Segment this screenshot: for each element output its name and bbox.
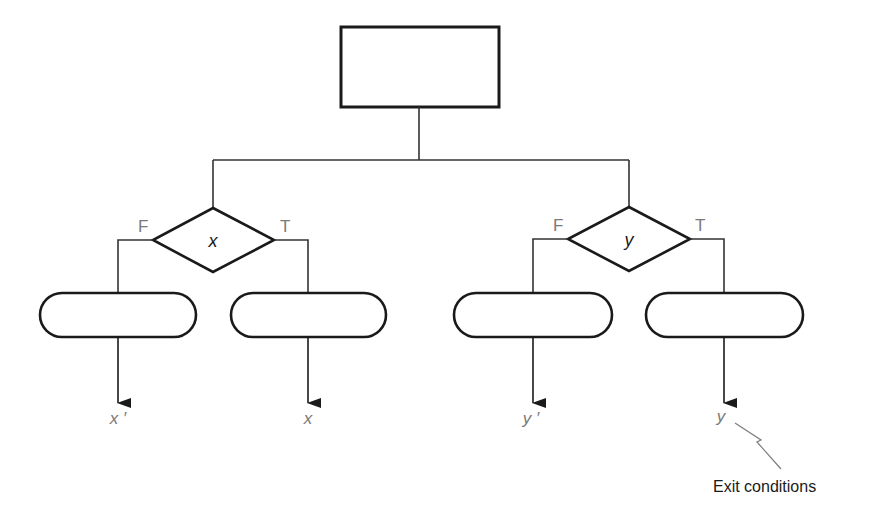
annotation-exit-conditions: Exit conditions [713,478,816,495]
decision-x-false-label: F [138,217,148,236]
action-y-true [646,293,803,337]
connector-stem [213,107,629,208]
exit-label-x-true: x [303,409,313,428]
action-y-false [454,293,612,337]
exit-label-y-false: y ′ [522,409,540,428]
decision-x-true-label: T [280,217,290,236]
exit-arrows [118,337,724,403]
exit-label-x-false: x ′ [109,409,127,428]
decision-y-condition: y [623,230,635,250]
action-x-false [40,293,196,337]
decision-y-true-label: T [695,216,705,235]
decision-x-condition: x [208,231,219,251]
decision-y-false-label: F [553,216,563,235]
annotation-leader-line [735,423,781,469]
decision-x: x F T [138,208,290,272]
action-x-true [231,293,386,337]
top-process-box [341,27,499,107]
decision-y: y F T [553,207,705,271]
exit-label-y-true: y [716,407,727,426]
flowchart-diagram: x F T y F T x ′ x y ′ [0,0,872,517]
